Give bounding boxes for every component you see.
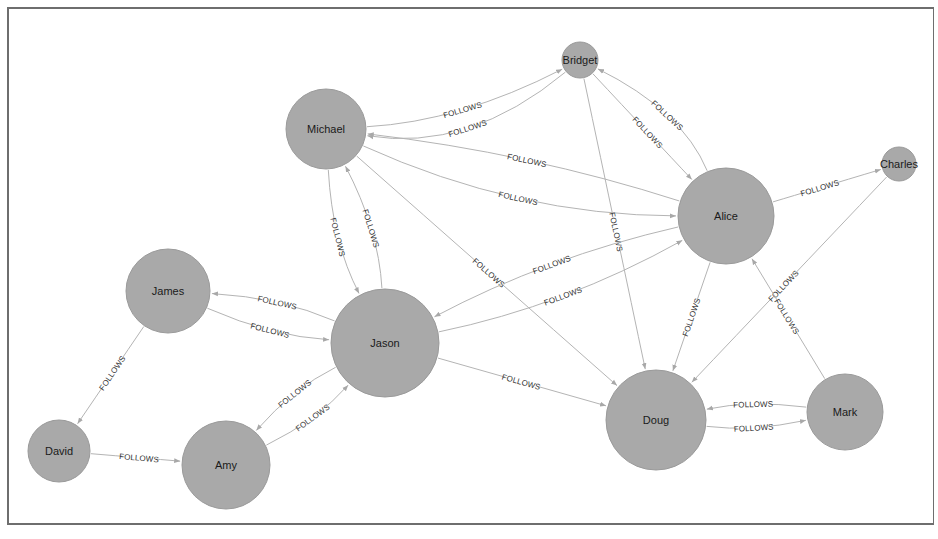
edge-label: FOLLOWS bbox=[328, 217, 346, 258]
edge-label: FOLLOWS bbox=[257, 294, 298, 311]
edge-line[interactable] bbox=[345, 166, 381, 288]
node-label: James bbox=[152, 285, 185, 297]
edge-label: FOLLOWS bbox=[250, 321, 291, 340]
edge-jason-follows-alice[interactable]: FOLLOWS bbox=[439, 240, 682, 331]
node-amy[interactable]: Amy bbox=[182, 421, 270, 509]
node-label: Mark bbox=[833, 406, 858, 418]
edge-label: FOLLOWS bbox=[767, 269, 801, 304]
node-doug[interactable]: Doug bbox=[606, 370, 706, 470]
edge-amy-follows-jason[interactable]: FOLLOWS bbox=[266, 385, 348, 445]
edge-michael-follows-jason[interactable]: FOLLOWS bbox=[328, 170, 359, 293]
edge-alice-follows-bridget[interactable]: FOLLOWS bbox=[598, 69, 707, 171]
edge-label: FOLLOWS bbox=[630, 115, 664, 150]
edge-label: FOLLOWS bbox=[498, 190, 539, 207]
edge-james-follows-david[interactable]: FOLLOWS bbox=[78, 327, 144, 424]
node-label: Charles bbox=[880, 158, 918, 170]
edge-michael-follows-bridget[interactable]: FOLLOWS bbox=[367, 69, 562, 127]
edge-label: FOLLOWS bbox=[98, 354, 128, 392]
edge-label: FOLLOWS bbox=[447, 118, 488, 139]
edge-david-follows-amy[interactable]: FOLLOWS bbox=[91, 451, 180, 464]
node-jason[interactable]: Jason bbox=[331, 289, 439, 397]
node-label: Alice bbox=[714, 210, 738, 222]
edge-label: FOLLOWS bbox=[501, 372, 542, 392]
edge-line[interactable] bbox=[367, 69, 562, 127]
edge-label: FOLLOWS bbox=[799, 178, 840, 198]
edge-label: FOLLOWS bbox=[734, 422, 774, 433]
edge-label: FOLLOWS bbox=[294, 402, 331, 433]
edge-jason-follows-amy[interactable]: FOLLOWS bbox=[256, 367, 335, 430]
edge-label: FOLLOWS bbox=[442, 100, 483, 120]
edge-label: FOLLOWS bbox=[119, 452, 159, 464]
edge-label: FOLLOWS bbox=[733, 400, 773, 410]
edge-mark-follows-doug[interactable]: FOLLOWS bbox=[707, 399, 806, 410]
edge-label: FOLLOWS bbox=[532, 254, 572, 276]
edge-alice-follows-doug[interactable]: FOLLOWS bbox=[673, 262, 710, 370]
node-mark[interactable]: Mark bbox=[807, 374, 883, 450]
edge-line[interactable] bbox=[256, 367, 335, 430]
edge-line[interactable] bbox=[439, 240, 682, 331]
edge-label: FOLLOWS bbox=[607, 212, 624, 253]
edge-label: FOLLOWS bbox=[277, 378, 314, 410]
edge-line[interactable] bbox=[207, 308, 329, 340]
node-label: David bbox=[45, 445, 73, 457]
node-label: Michael bbox=[307, 123, 345, 135]
edge-label: FOLLOWS bbox=[361, 208, 381, 249]
edge-label: FOLLOWS bbox=[506, 152, 547, 169]
graph-visualization[interactable]: FOLLOWSFOLLOWSFOLLOWSFOLLOWSFOLLOWSFOLLO… bbox=[0, 0, 938, 539]
edge-label: FOLLOWS bbox=[772, 297, 800, 336]
node-bridget[interactable]: Bridget bbox=[562, 42, 598, 78]
edge-label: FOLLOWS bbox=[543, 285, 583, 307]
node-label: Doug bbox=[643, 414, 669, 426]
edge-line[interactable] bbox=[598, 69, 707, 171]
edge-doug-follows-mark[interactable]: FOLLOWS bbox=[707, 420, 806, 434]
edge-james-follows-jason[interactable]: FOLLOWS bbox=[207, 308, 329, 340]
edge-jason-follows-james[interactable]: FOLLOWS bbox=[212, 293, 335, 321]
edge-jason-follows-doug[interactable]: FOLLOWS bbox=[438, 358, 606, 406]
node-michael[interactable]: Michael bbox=[286, 89, 366, 169]
edge-alice-follows-charles[interactable]: FOLLOWS bbox=[773, 169, 881, 201]
node-alice[interactable]: Alice bbox=[678, 168, 774, 264]
node-james[interactable]: James bbox=[126, 249, 210, 333]
node-charles[interactable]: Charles bbox=[880, 147, 918, 181]
edge-label: FOLLOWS bbox=[681, 297, 702, 338]
node-label: Jason bbox=[370, 337, 399, 349]
node-label: Bridget bbox=[563, 54, 598, 66]
edge-jason-follows-michael[interactable]: FOLLOWS bbox=[345, 166, 381, 288]
nodes-layer: MichaelBridgetAliceCharlesJamesJasonDavi… bbox=[28, 42, 918, 509]
node-label: Amy bbox=[215, 459, 238, 471]
node-david[interactable]: David bbox=[28, 420, 90, 482]
edge-label: FOLLOWS bbox=[649, 99, 684, 133]
